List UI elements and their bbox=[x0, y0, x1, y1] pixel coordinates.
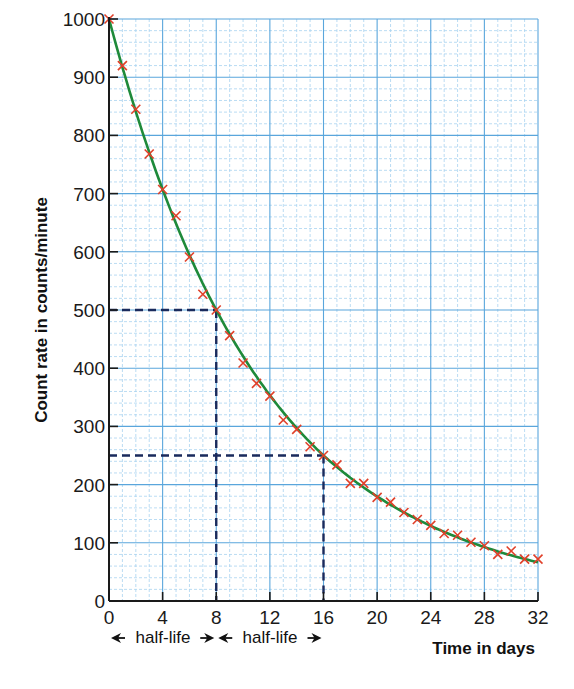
y-axis-title: Count rate in counts/minute bbox=[32, 197, 51, 423]
y-tick-label: 600 bbox=[73, 242, 105, 263]
x-tick-label: 16 bbox=[313, 607, 334, 628]
y-tick-label: 400 bbox=[73, 358, 105, 379]
half-life-annotations: half-life half-life bbox=[111, 628, 322, 647]
y-tick-label: 700 bbox=[73, 184, 105, 205]
half-life-label-1: half-life bbox=[136, 628, 191, 647]
y-tick-label: 1000 bbox=[63, 9, 105, 30]
x-tick-label: 8 bbox=[211, 607, 222, 628]
x-tick-label: 12 bbox=[259, 607, 280, 628]
y-tick-label: 300 bbox=[73, 416, 105, 437]
y-tick-label: 200 bbox=[73, 475, 105, 496]
x-tick-label: 20 bbox=[367, 607, 388, 628]
x-tick-label: 4 bbox=[157, 607, 168, 628]
y-tick-labels: 01002003004005006007008009001000 bbox=[63, 9, 105, 612]
y-tick-label: 500 bbox=[73, 300, 105, 321]
x-tick-label: 32 bbox=[527, 607, 548, 628]
half-life-label-2: half-life bbox=[243, 628, 298, 647]
x-tick-labels: 048121620242832 bbox=[104, 607, 549, 628]
half-life-guides bbox=[109, 310, 324, 601]
y-tick-label: 100 bbox=[73, 533, 105, 554]
x-tick-label: 28 bbox=[474, 607, 495, 628]
x-tick-label: 0 bbox=[104, 607, 115, 628]
x-tick-label: 24 bbox=[420, 607, 442, 628]
decay-chart: 01002003004005006007008009001000 0481216… bbox=[0, 0, 574, 689]
x-axis-title: Time in days bbox=[432, 639, 535, 658]
y-tick-label: 800 bbox=[73, 125, 105, 146]
y-tick-label: 900 bbox=[73, 67, 105, 88]
